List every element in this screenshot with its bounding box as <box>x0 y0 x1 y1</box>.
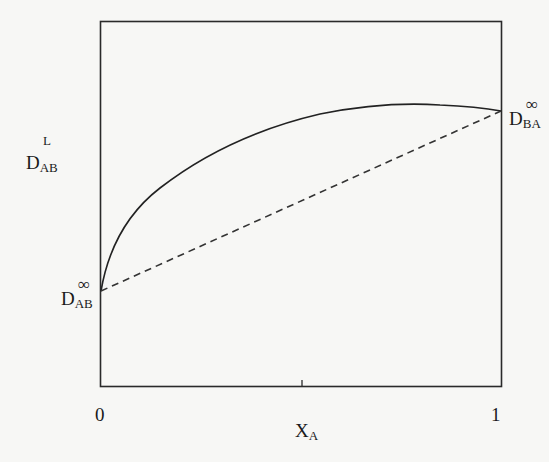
right-endpoint-label-sub: BA <box>523 116 541 131</box>
right-endpoint-label: DBA ∞ <box>509 109 541 128</box>
diffusivity-curve <box>101 104 501 291</box>
left-endpoint-label-sup: ∞ <box>78 276 90 293</box>
y-axis-label-sup: L <box>43 134 51 147</box>
x-axis-label-sub: A <box>309 428 318 443</box>
linear-interpolation-dashed-line <box>101 111 501 291</box>
x-axis-label-main: X <box>295 420 309 441</box>
y-axis-label-sub: AB <box>40 160 58 175</box>
diffusivity-diagram <box>0 0 549 462</box>
right-endpoint-label-sup: ∞ <box>526 96 538 113</box>
y-axis-label: DAB L <box>26 153 58 172</box>
x-tick-0: 0 <box>95 405 105 424</box>
y-axis-label-main: D <box>26 152 40 173</box>
right-endpoint-label-main: D <box>509 108 523 129</box>
x-axis-label: XA <box>295 421 318 440</box>
left-endpoint-label-main: D <box>61 288 75 309</box>
left-endpoint-label-sub: AB <box>75 296 93 311</box>
plot-frame <box>101 22 502 387</box>
x-tick-1: 1 <box>491 405 501 424</box>
left-endpoint-label: DAB ∞ <box>61 289 93 308</box>
